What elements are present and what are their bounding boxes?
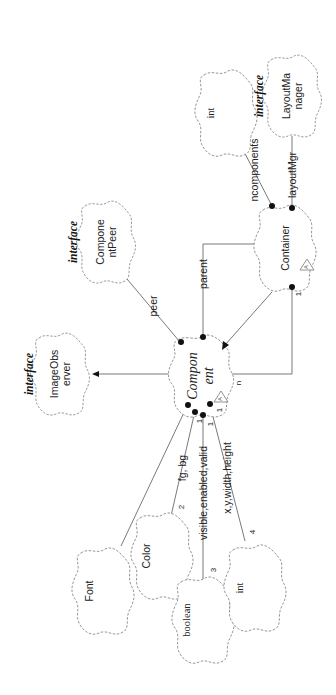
layoutmanager-name-line2: nager [292,82,304,109]
mult-color-component-1: 1 [195,418,204,423]
class-font[interactable]: Font [72,548,134,634]
inherit-arrow-imageobserver-icon [92,371,99,377]
mult-component-n: n [234,381,243,385]
interface-componentpeer[interactable]: Compone ntPeer [76,201,135,283]
role-label-peer: peer [147,295,159,317]
imageobserver-name-line2: erver [60,362,72,386]
componentpeer-name-line1: Compone [94,219,106,265]
layoutmanager-name-line1: LayoutMa [280,73,292,119]
class-diagram: Compon ent A ImageObs erver interface Co… [0,0,336,695]
role-label-fg-bg: fg, bg [176,455,188,481]
svg-text:A: A [217,397,223,401]
componentpeer-stereotype: interface [67,221,80,263]
component-name-line2: ent [201,366,216,384]
dot-boolean [200,412,206,418]
int-top-name: int [205,107,216,118]
dot-layoutmgr [289,205,295,211]
componentpeer-name-line2: ntPeer [106,226,118,257]
parent-line [203,244,267,337]
interface-layoutmanager[interactable]: LayoutMa nager [262,55,321,137]
class-int-bottom[interactable]: int [224,545,286,631]
mult-int-4: 4 [248,529,257,534]
class-container[interactable]: Container A [254,205,316,291]
dot-ncomponents [269,203,275,209]
mult-boolean-component-1: 1 [206,421,215,426]
mult-color-2: 2 [177,504,186,509]
boolean-name: boolean [181,603,192,637]
dot-peer [178,339,184,345]
component-name-line1: Compon [185,352,200,399]
dot-int-bottom [207,401,213,407]
layoutmanager-stereotype: interface [253,75,266,117]
role-label-x-y-width-height: x,y,width,height [221,442,233,514]
mult-boolean-3: 3 [209,567,218,572]
font-name: Font [83,580,95,601]
color-name: Color [140,543,152,569]
imageobserver-name-line1: ImageObs [48,350,60,398]
mult-int-component-1: 1 [215,407,224,412]
int-bottom-name: int [234,582,245,593]
interface-imageobserver[interactable]: ImageObs erver [30,333,89,415]
mult-container-1: 1 [294,291,303,296]
role-label-visible-enabled-valid: visible,enabled,valid [197,446,209,540]
role-label-ncomponents: ncomponents [248,138,260,201]
imageobserver-stereotype: interface [23,353,36,395]
dot-font [185,402,191,408]
svg-text:A: A [303,265,309,269]
inherit-container-line [225,292,272,345]
dot-color [192,409,198,415]
dot-container-components [289,284,295,290]
dot-parent [200,334,206,340]
container-name: Container [279,225,291,271]
role-label-parent: parent [197,259,209,289]
role-label-layoutmgr: layoutMgr [286,151,298,198]
